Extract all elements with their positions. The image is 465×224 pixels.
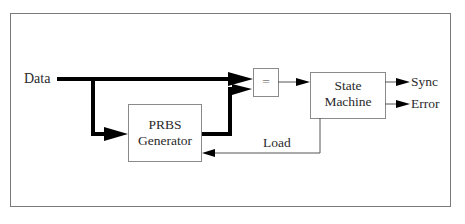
data-label: Data: [24, 71, 50, 86]
comparator-label: =: [253, 74, 279, 89]
prbs-input-arrow-icon: [104, 127, 128, 141]
prbs-label-line2: Generator: [128, 133, 202, 148]
state-machine-label-line2: Machine: [310, 94, 386, 109]
prbs-label-line1: PRBS: [128, 117, 202, 132]
load-label: Load: [263, 135, 291, 150]
sync-arrow-icon: [396, 78, 410, 86]
prbs-output-bus-line: [201, 89, 238, 134]
prbs-output-arrow-icon: [232, 84, 252, 95]
compare-arrow-icon: [296, 78, 310, 86]
data-arrow-icon: [228, 72, 253, 86]
diagram-canvas: [0, 0, 465, 224]
load-arrow-icon: [202, 149, 215, 157]
sync-label: Sync: [411, 74, 438, 89]
error-label: Error: [411, 96, 439, 111]
error-arrow-icon: [396, 100, 410, 108]
prbs-input-bus-line: [93, 79, 108, 134]
state-machine-label-line1: State: [310, 78, 386, 93]
